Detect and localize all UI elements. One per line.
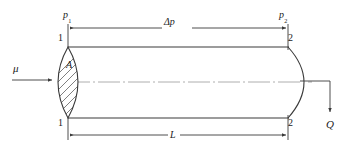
- outlet-pressure-label: p2: [279, 10, 287, 22]
- station-1-bottom-label: 1: [58, 118, 63, 128]
- figure-container: p1 p2 Δp L 1 1 2 2 μ A Q: [0, 0, 348, 163]
- tube-right-end-cap: [288, 47, 304, 118]
- outlet-flow-arrow: [300, 81, 330, 112]
- station-2-bottom-label: 2: [288, 118, 293, 128]
- outlet-pressure-subscript: 2: [284, 17, 287, 24]
- viscosity-label: μ: [13, 63, 19, 74]
- inlet-cross-section-lens: [58, 47, 78, 118]
- inlet-pressure-label: p1: [63, 10, 71, 22]
- station-2-top-label: 2: [288, 33, 293, 43]
- length-label: L: [170, 130, 176, 140]
- inlet-pressure-subscript: 1: [68, 17, 71, 24]
- pressure-drop-label: Δp: [164, 17, 175, 27]
- flow-rate-label: Q: [326, 119, 334, 130]
- station-1-top-label: 1: [58, 33, 63, 43]
- cross-section-area-label: A: [66, 60, 72, 70]
